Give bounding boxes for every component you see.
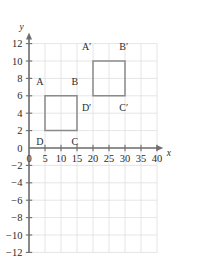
x-tick-label: 10 bbox=[56, 153, 67, 164]
coordinate-plane-figure: 0510152025303540121086420−2−4−6−8−10−12 … bbox=[0, 0, 199, 263]
vertex-label: C′ bbox=[119, 102, 128, 113]
x-axis-label: x bbox=[166, 148, 172, 158]
y-axis-arrowhead bbox=[26, 32, 32, 39]
x-tick-label: 0 bbox=[26, 153, 31, 164]
y-axis-label: y bbox=[19, 22, 25, 32]
x-tick-label: 30 bbox=[120, 153, 131, 164]
x-tick-label: 5 bbox=[42, 153, 47, 164]
vertex-label: A′ bbox=[82, 41, 91, 52]
y-tick-label: 8 bbox=[17, 73, 22, 84]
vertex-label: B bbox=[71, 76, 78, 87]
vertex-label: C bbox=[71, 136, 78, 147]
y-tick-label: 4 bbox=[17, 108, 23, 119]
y-tick-label: −6 bbox=[11, 195, 22, 206]
x-tick-label: 40 bbox=[152, 153, 163, 164]
y-tick-label: 10 bbox=[12, 56, 23, 67]
x-tick-label: 35 bbox=[136, 153, 147, 164]
x-tick-label: 25 bbox=[104, 153, 115, 164]
x-tick-label: 20 bbox=[88, 153, 99, 164]
y-tick-label: −8 bbox=[11, 212, 22, 223]
y-tick-label: −4 bbox=[11, 177, 23, 188]
vertex-label: D′ bbox=[82, 102, 91, 113]
y-tick-label: 6 bbox=[17, 90, 22, 101]
y-tick-label: −2 bbox=[11, 160, 22, 171]
y-tick-label: 12 bbox=[12, 38, 23, 49]
axes-layer bbox=[26, 32, 163, 252]
y-tick-label: 0 bbox=[17, 143, 22, 154]
coordinate-plane-svg: 0510152025303540121086420−2−4−6−8−10−12 … bbox=[0, 0, 199, 263]
y-tick-label: −12 bbox=[6, 247, 22, 258]
vertex-label: B′ bbox=[119, 41, 128, 52]
x-tick-label: 15 bbox=[72, 153, 83, 164]
y-tick-label: −10 bbox=[6, 230, 22, 241]
vertex-label: D bbox=[36, 136, 43, 147]
y-tick-label: 2 bbox=[17, 125, 22, 136]
vertex-labels-layer: ABCDA′B′C′D′ bbox=[36, 41, 128, 147]
vertex-label: A bbox=[36, 76, 44, 87]
